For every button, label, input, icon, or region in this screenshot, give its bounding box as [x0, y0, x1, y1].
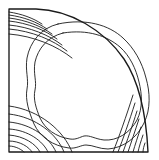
contour-plot-figure: [0, 0, 159, 160]
contour-plot-area: [0, 0, 159, 160]
